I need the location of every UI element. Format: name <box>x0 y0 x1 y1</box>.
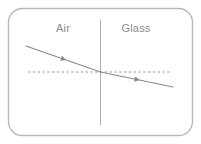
refraction-diagram: Air Glass <box>0 0 201 144</box>
diagram-canvas: Air Glass <box>0 0 201 144</box>
label-glass: Glass <box>121 22 150 34</box>
label-air: Air <box>56 22 70 34</box>
